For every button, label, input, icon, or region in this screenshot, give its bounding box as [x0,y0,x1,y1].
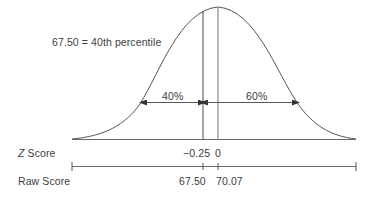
raw-score-axis-label: Raw Score [18,175,70,187]
left-region-label: 40% [162,90,183,102]
percentile-annotation: 67.50 = 40th percentile [52,36,161,48]
z-score-axis-label: Z Score [18,147,55,159]
z-score-text: Score [25,147,56,159]
z-tick-label-neg-025: −0.25 [183,147,210,159]
right-region-label: 60% [246,90,267,102]
raw-tick-label-70-07: 70.07 [216,175,243,187]
bell-curve [72,7,356,139]
normal-distribution-diagram [0,0,381,197]
raw-tick-label-67-50: 67.50 [179,175,206,187]
z-tick-label-0: 0 [215,147,221,159]
